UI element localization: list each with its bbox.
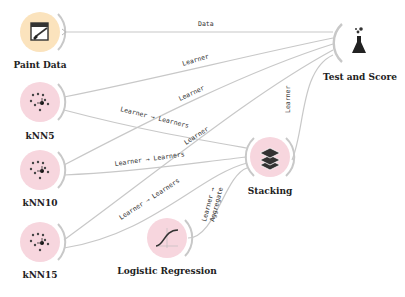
label-knn10: kNN10 bbox=[22, 198, 57, 208]
workflow-canvas[interactable]: Data Learner Learner Learner Learner → L… bbox=[0, 0, 405, 297]
node-logistic-regression[interactable] bbox=[147, 218, 192, 258]
node-paint-data[interactable] bbox=[20, 12, 66, 52]
node-knn5[interactable] bbox=[20, 82, 65, 122]
node-test-and-score[interactable] bbox=[334, 23, 380, 63]
label-stacking: Stacking bbox=[248, 186, 292, 196]
paint-data-icon bbox=[31, 23, 48, 40]
node-stacking[interactable] bbox=[246, 137, 295, 177]
link-label-data: Data bbox=[198, 20, 214, 28]
link-label-knn10-learner: Learner bbox=[177, 84, 205, 103]
stacking-icon bbox=[260, 148, 280, 170]
label-knn15: kNN15 bbox=[22, 270, 57, 280]
label-paint-data: Paint Data bbox=[13, 60, 66, 70]
link-knn15-testscore[interactable] bbox=[64, 50, 333, 240]
label-test-and-score: Test and Score bbox=[323, 72, 397, 82]
label-logistic-regression: Logistic Regression bbox=[117, 266, 216, 276]
link-label-knn15-stacking: Learner → Learners bbox=[118, 177, 182, 222]
node-knn15[interactable] bbox=[20, 222, 65, 262]
link-label-stacking-learner: Learner bbox=[284, 86, 292, 113]
label-knn5: kNN5 bbox=[26, 131, 55, 141]
node-knn10[interactable] bbox=[20, 150, 65, 190]
